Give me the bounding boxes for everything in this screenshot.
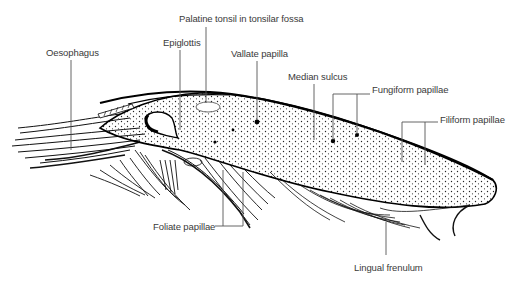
label-palatine-tonsil: Palatine tonsil in tonsilar fossa bbox=[179, 13, 304, 24]
label-filiform-papillae: Filiform papillae bbox=[440, 114, 505, 125]
label-lingual-frenulum: Lingual frenulum bbox=[354, 262, 423, 273]
label-epiglottis: Epiglottis bbox=[163, 37, 201, 48]
tongue-diagram: Oesophagus Epiglottis Palatine tonsil in… bbox=[0, 0, 518, 285]
tongue-illustration bbox=[0, 0, 518, 285]
palatine-tonsil-drawing bbox=[196, 102, 220, 112]
label-vallate-papilla: Vallate papilla bbox=[231, 48, 288, 59]
label-fungiform-papillae: Fungiform papillae bbox=[372, 84, 448, 95]
label-oesophagus: Oesophagus bbox=[46, 47, 99, 58]
label-median-sulcus: Median sulcus bbox=[288, 71, 347, 82]
tongue-dorsum bbox=[100, 93, 496, 207]
label-foliate-papillae: Foliate papillae bbox=[153, 221, 215, 232]
